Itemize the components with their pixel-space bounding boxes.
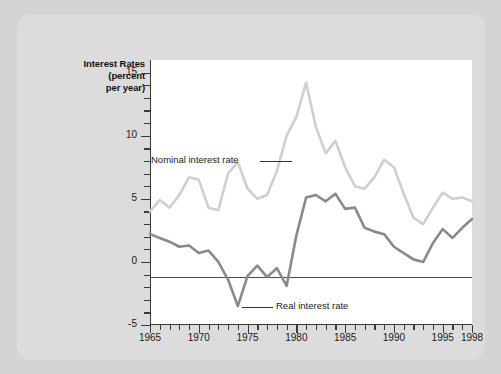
x-tick — [160, 325, 161, 330]
x-tick — [238, 325, 239, 330]
x-tick — [365, 325, 366, 330]
series-lines — [150, 60, 472, 325]
y-tick-label: 0 — [111, 255, 137, 266]
y-tick-label: -5 — [111, 318, 137, 329]
x-tick — [384, 325, 385, 330]
x-tick — [306, 325, 307, 330]
x-tick — [374, 325, 375, 330]
x-tick-label: 1965 — [128, 332, 172, 343]
x-tick — [228, 325, 229, 330]
real-leader-line — [242, 307, 273, 308]
x-tick — [209, 325, 210, 330]
x-tick — [257, 325, 258, 330]
y-tick — [141, 73, 150, 74]
x-tick — [413, 325, 414, 330]
x-tick-label: 1998 — [450, 332, 494, 343]
x-tick — [218, 325, 219, 330]
y-tick — [141, 136, 150, 137]
x-tick — [433, 325, 434, 330]
x-tick — [179, 325, 180, 330]
x-tick — [452, 325, 453, 330]
x-tick — [277, 325, 278, 330]
x-tick — [170, 325, 171, 330]
x-tick — [326, 325, 327, 330]
nominal-series-label: Nominal interest rate — [151, 154, 239, 165]
x-tick-label: 1990 — [372, 332, 416, 343]
x-tick — [423, 325, 424, 330]
x-tick — [404, 325, 405, 330]
y-tick — [141, 262, 150, 263]
real-series-label: Real interest rate — [276, 300, 348, 311]
y-tick-label: 15 — [111, 66, 137, 77]
x-tick-label: 1975 — [226, 332, 270, 343]
x-tick-label: 1970 — [177, 332, 221, 343]
x-tick-label: 1980 — [274, 332, 318, 343]
x-tick — [355, 325, 356, 330]
y-tick-label: 10 — [111, 129, 137, 140]
figure-card: Interest Rates (percent per year) -50510… — [17, 14, 485, 360]
x-tick-label: 1985 — [323, 332, 367, 343]
y-tick — [141, 199, 150, 200]
x-tick — [287, 325, 288, 330]
y-tick — [141, 325, 150, 326]
x-tick — [267, 325, 268, 330]
x-tick — [189, 325, 190, 330]
x-tick — [335, 325, 336, 330]
chart-title-line-3: per year) — [37, 82, 145, 94]
x-tick — [462, 325, 463, 330]
real-rate-line — [150, 194, 472, 306]
x-tick — [316, 325, 317, 330]
y-tick-label: 5 — [111, 192, 137, 203]
nominal-leader-line — [260, 161, 292, 162]
